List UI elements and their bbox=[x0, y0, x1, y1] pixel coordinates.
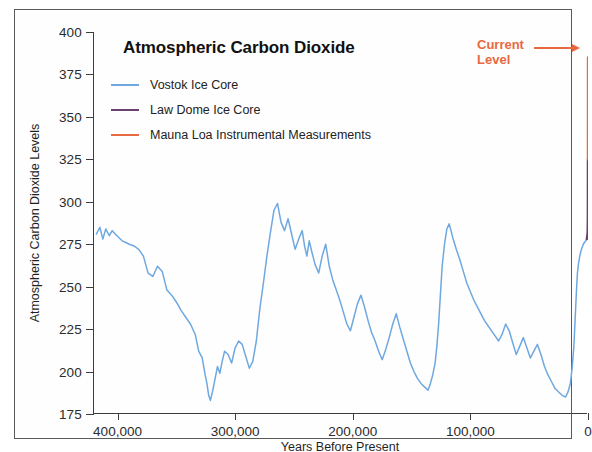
y-axis-tick bbox=[86, 159, 94, 160]
x-axis-tick bbox=[353, 413, 354, 420]
series-line-vostok bbox=[96, 203, 586, 400]
x-axis-tick bbox=[470, 413, 471, 420]
x-axis-tick bbox=[118, 413, 119, 420]
y-axis-tick-label: 175 bbox=[59, 407, 82, 422]
y-axis-tick-label: 325 bbox=[59, 152, 82, 167]
y-axis-tick bbox=[86, 244, 94, 245]
y-axis-tick-label: 350 bbox=[59, 109, 82, 124]
y-axis-tick bbox=[86, 202, 94, 203]
y-axis-tick bbox=[86, 74, 94, 75]
plot-area: 175200225250275300325350375400 400,00030… bbox=[93, 32, 587, 414]
y-axis-tick-label: 300 bbox=[59, 194, 82, 209]
x-axis-tick-label: 300,000 bbox=[211, 424, 260, 439]
y-axis-tick bbox=[86, 117, 94, 118]
x-axis-tick-label: 0 bbox=[584, 424, 592, 439]
x-axis-tick-label: 200,000 bbox=[328, 424, 377, 439]
y-axis-tick bbox=[86, 287, 94, 288]
y-axis-tick-label: 225 bbox=[59, 322, 82, 337]
figure-frame: Atmospheric Carbon Dioxide Vostok Ice Co… bbox=[14, 9, 572, 439]
x-axis-title: Years Before Present bbox=[93, 440, 587, 452]
y-axis-title: Atmospheric Carbon Dioxide Levels bbox=[28, 124, 42, 323]
y-axis-tick bbox=[86, 32, 94, 33]
x-axis-tick-label: 400,000 bbox=[93, 424, 142, 439]
series-line-law-dome bbox=[587, 159, 588, 239]
y-axis-tick-label: 250 bbox=[59, 279, 82, 294]
y-axis-tick-label: 400 bbox=[59, 25, 82, 40]
x-axis-tick bbox=[235, 413, 236, 420]
y-axis-tick bbox=[86, 329, 94, 330]
x-axis-tick bbox=[588, 413, 589, 420]
y-axis-tick bbox=[86, 372, 94, 373]
x-axis-tick-label: 100,000 bbox=[446, 424, 495, 439]
y-axis-tick-label: 275 bbox=[59, 237, 82, 252]
y-axis-tick-label: 375 bbox=[59, 67, 82, 82]
chart-series-canvas bbox=[94, 32, 588, 414]
y-axis-tick bbox=[86, 414, 94, 415]
y-axis-tick-label: 200 bbox=[59, 364, 82, 379]
